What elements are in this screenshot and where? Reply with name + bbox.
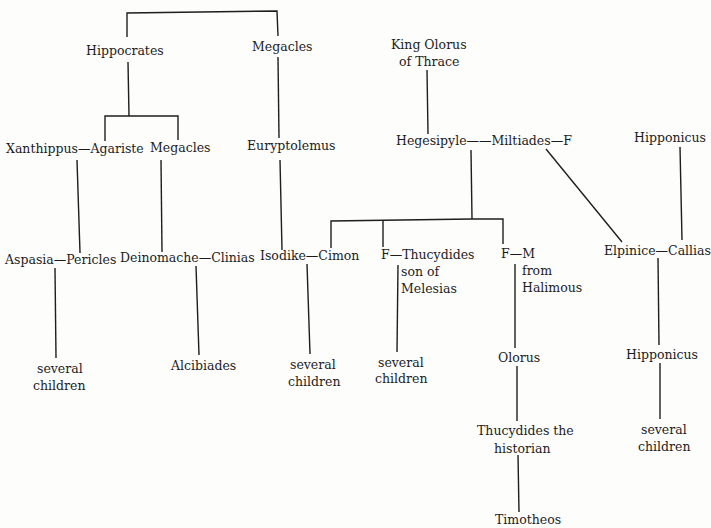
connector-miltiades-down [471, 150, 472, 219]
connector-olorus-hegesipyle [427, 70, 428, 134]
node-xanthippus-agariste: Xanthippus—Agariste [6, 140, 144, 157]
node-aspasia-pericles: Aspasia—Pericles [5, 251, 116, 268]
connector-cimon-children [307, 264, 310, 354]
node-elpinice-callias: Elpinice—Callias [604, 242, 711, 259]
connector-hipponicus-callias [680, 147, 682, 240]
connector-euryptolemus-isodike [280, 160, 282, 250]
connector-agariste-pericles [77, 160, 80, 253]
connector-thucydides-timotheos [518, 455, 519, 512]
node-several-children-hipponicus-2: children [638, 438, 690, 455]
connector-miltiades-children [331, 219, 503, 248]
node-isodike-cimon: Isodike—Cimon [260, 247, 359, 264]
node-deinomache-clinias: Deinomache—Clinias [120, 249, 255, 266]
connector-clinias-alcibiades [196, 266, 199, 355]
node-euryptolemus: Euryptolemus [247, 137, 335, 154]
connector-hippocrates-down [128, 62, 129, 116]
connector-thucydides-children [397, 265, 398, 352]
node-alcibiades: Alcibiades [171, 357, 236, 374]
node-hippocrates: Hippocrates [86, 42, 164, 59]
node-several-children-pericles-2: children [33, 377, 85, 394]
node-f-m: F—M [501, 245, 535, 262]
connector-hippocrates-megacles [127, 11, 278, 37]
node-hipponicus-top: Hipponicus [634, 129, 706, 146]
connector-pericles-children [55, 268, 56, 358]
node-several-children-pericles-1: several [37, 360, 83, 377]
node-megacles-mid: Megacles [150, 139, 210, 156]
node-timotheos: Timotheos [495, 511, 561, 528]
connector-callias-hipponicus [658, 258, 659, 345]
node-olorus: Olorus [498, 349, 540, 366]
node-megacles-top: Megacles [252, 38, 312, 55]
node-hipponicus-bottom: Hipponicus [626, 346, 698, 363]
node-melesias: Melesias [401, 280, 457, 297]
node-thucydides-historian-2: historian [494, 440, 551, 457]
node-several-children-thucydides-1: several [378, 354, 424, 371]
node-several-children-thucydides-2: children [375, 370, 427, 387]
node-son-of: son of [401, 263, 439, 280]
node-halimous: Halimous [522, 279, 582, 296]
connector-megacles-euryptolemus [278, 57, 279, 138]
node-thucydides-historian-1: Thucydides the [477, 422, 574, 439]
node-king-olorus-line1: King Olorus [391, 36, 467, 53]
connector-hippocrates-children [105, 116, 178, 141]
node-hegesipyle-miltiades: Hegesipyle——Miltiades—F [396, 132, 572, 149]
node-from: from [522, 262, 552, 279]
node-several-children-hipponicus-1: several [641, 421, 687, 438]
node-f-thucydides: F—Thucydides [381, 246, 475, 263]
connector-megacles-deinomache [161, 160, 162, 252]
connector-f-elpinice [546, 149, 622, 242]
node-several-children-cimon-1: several [290, 356, 336, 373]
node-king-olorus-line2: of Thrace [399, 53, 459, 70]
node-several-children-cimon-2: children [288, 373, 340, 390]
